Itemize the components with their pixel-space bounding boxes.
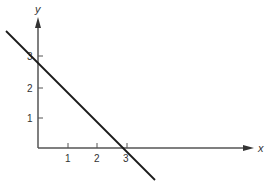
x-tick-label-3: 3 (123, 153, 129, 164)
data-line (6, 31, 155, 180)
y-tick-label-1: 1 (27, 113, 33, 124)
x-tick-label-1: 1 (65, 153, 71, 164)
y-axis-arrow-icon (35, 17, 41, 28)
y-tick-label-2: 2 (27, 83, 33, 94)
y-axis-label: y (34, 3, 42, 15)
x-tick-label-2: 2 (94, 153, 100, 164)
coordinate-plane: 1 2 3 1 2 3 y x (0, 0, 272, 188)
x-axis-label: x (257, 142, 264, 154)
x-axis-arrow-icon (243, 145, 254, 151)
